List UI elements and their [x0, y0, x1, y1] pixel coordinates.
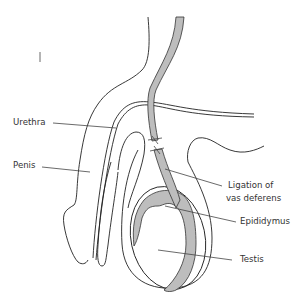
vas-deferens-upper [148, 17, 184, 141]
label-urethra: Urethra [13, 117, 46, 128]
label-ligation-line2: vas deferens [226, 193, 281, 204]
penis-leader [42, 167, 90, 172]
label-ligation-line1: Ligation of [228, 180, 273, 191]
vasectomy-diagram: Urethra Penis Ligation of vas deferens E… [0, 0, 303, 307]
penis-inner-loop [118, 132, 145, 208]
label-penis: Penis [13, 160, 35, 171]
label-epididymus: Epididymus [240, 216, 290, 227]
urethra-leader [53, 123, 116, 128]
epididymus-shape [133, 190, 196, 291]
epididymus-leader [165, 206, 236, 222]
label-testis: Testis [240, 254, 264, 265]
